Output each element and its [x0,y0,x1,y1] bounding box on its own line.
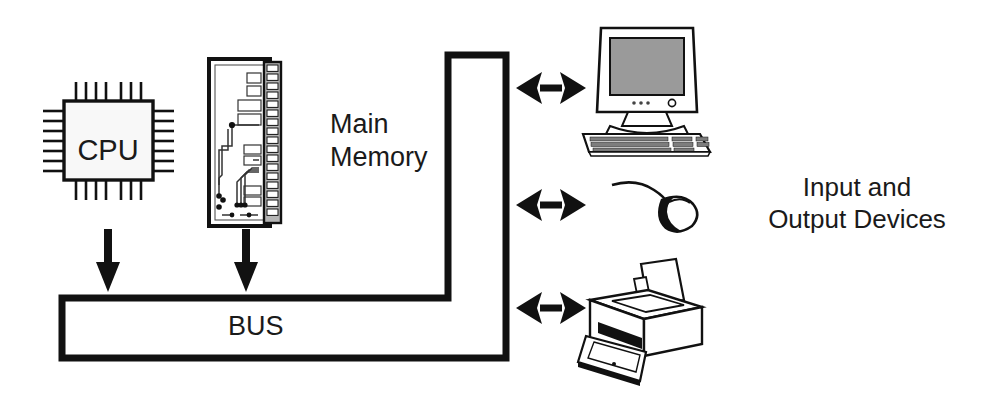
double-arrow-monitor [516,72,586,104]
memory-connector-contacts [267,65,278,215]
main-memory-label-line1: Main [330,109,389,139]
io-devices-label-line2: Output Devices [768,204,946,234]
io-devices-label-line1: Input and [803,172,911,202]
main-memory-label-line2: Memory [330,142,428,172]
double-arrow-printer [516,292,586,324]
cpu-chip: CPU [43,82,174,200]
arrow-memory-to-bus [234,229,258,292]
monitor-stand-neck [622,112,672,126]
monitor-indicator-leds [632,101,650,105]
monitor-screen [610,38,684,95]
cpu-pins-right [153,111,174,171]
mouse-device [612,182,697,231]
bus-label: BUS [228,310,284,343]
diagram-canvas: CPU [0,0,983,405]
main-memory-label: MainMemory [330,108,428,174]
double-arrow-mouse [516,189,586,221]
monitor-device [583,28,710,156]
monitor-power-button[interactable] [668,99,675,106]
cpu-label: CPU [77,134,138,166]
io-devices-label: Input andOutput Devices [750,172,964,235]
printer-device [578,259,702,386]
keyboard-front-edge [589,152,710,156]
keyboard-keys [590,137,709,151]
mouse-cable [612,182,668,204]
cpu-pins-left [43,111,64,171]
printer-control-button[interactable] [612,362,616,366]
arrow-cpu-to-bus [96,229,120,292]
main-memory-module [209,59,281,226]
